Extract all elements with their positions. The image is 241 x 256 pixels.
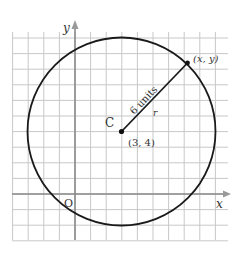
point-on-circle (185, 61, 190, 66)
point-label: (x, y) (193, 53, 219, 64)
center-coords-label: (3, 4) (128, 137, 155, 148)
y-axis-arrow-icon (72, 20, 79, 29)
center-label: C (105, 116, 114, 130)
circle-diagram: y x O C (3, 4) (x, y) 6 units r (0, 0, 241, 256)
origin-label: O (64, 197, 73, 210)
radius-symbol-label: r (153, 108, 158, 118)
x-axis-arrow-icon (223, 191, 231, 198)
x-axis-label: x (216, 197, 223, 211)
y-axis-label: y (62, 21, 70, 35)
center-point (119, 129, 124, 134)
radius-segment (122, 63, 188, 132)
